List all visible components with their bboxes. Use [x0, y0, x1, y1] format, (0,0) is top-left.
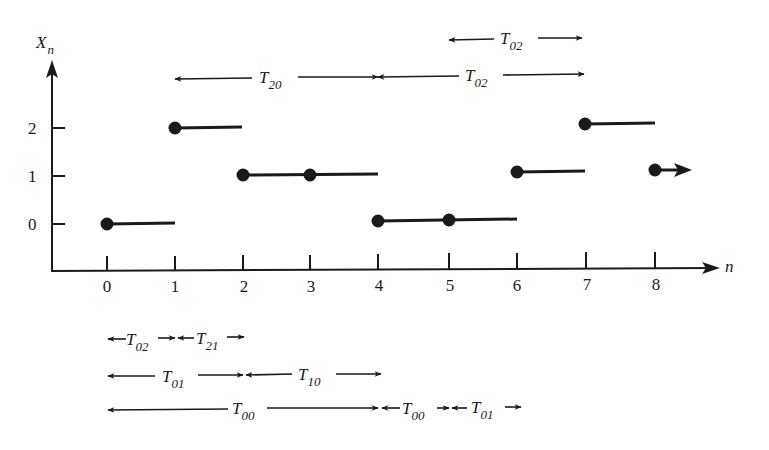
svg-text:5: 5 [446, 276, 455, 295]
y-tick-label-0: 0 [28, 215, 37, 234]
x-tick-labels: 0 1 2 3 4 5 6 7 8 [103, 275, 661, 296]
y-axis-label: Xn [35, 33, 54, 57]
x-ticks [107, 252, 655, 270]
axes [46, 60, 720, 274]
interval-label-T02-bottom: T02 [126, 330, 149, 354]
interval-label-T02-mid: T02 [465, 66, 488, 90]
interval-label-T20: T20 [259, 68, 282, 92]
interval-label-T01: T01 [162, 367, 184, 391]
svg-text:2: 2 [240, 277, 249, 296]
svg-text:3: 3 [307, 277, 316, 296]
interval-label-T02-top: T02 [500, 29, 523, 53]
markov-sample-path-diagram: Xn n 2 1 0 0 1 2 3 4 5 6 7 8 [0, 0, 769, 450]
x-axis [51, 268, 712, 271]
interval-label-T10: T10 [298, 365, 321, 389]
svg-text:1: 1 [171, 277, 180, 296]
interval-label-T01-right: T01 [471, 398, 493, 422]
interval-label-T00-short: T00 [402, 399, 425, 423]
interval-label-T00-long: T00 [232, 399, 255, 423]
y-tick-label-2: 2 [28, 119, 37, 138]
interval-label-T21: T21 [196, 329, 218, 353]
sample-path [102, 119, 692, 229]
y-ticks: 2 1 0 [28, 119, 65, 234]
top-intervals [175, 38, 584, 79]
svg-text:7: 7 [583, 275, 592, 294]
svg-text:8: 8 [652, 275, 661, 294]
svg-text:0: 0 [103, 277, 112, 296]
svg-text:6: 6 [513, 276, 522, 295]
svg-text:4: 4 [375, 276, 384, 295]
y-tick-label-1: 1 [28, 167, 37, 186]
x-axis-label: n [725, 257, 734, 276]
